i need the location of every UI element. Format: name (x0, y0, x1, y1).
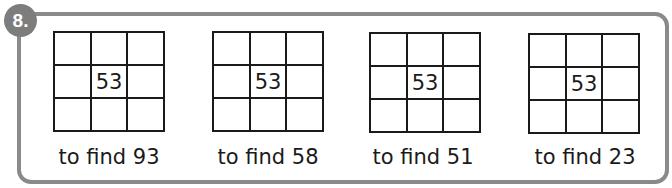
grid-cell[interactable] (127, 65, 164, 98)
grid-cell[interactable] (286, 98, 323, 131)
grid-cell[interactable] (127, 98, 164, 131)
grid-cell[interactable] (529, 34, 566, 67)
grid-cell[interactable] (443, 66, 480, 99)
grid-cell[interactable] (286, 65, 323, 98)
grid-cell[interactable] (443, 99, 480, 132)
grid-cell[interactable] (443, 33, 480, 66)
grid-cell[interactable] (529, 67, 566, 100)
grid-cell[interactable] (213, 98, 250, 131)
grid-cell[interactable] (213, 65, 250, 98)
grid-cell[interactable] (91, 98, 128, 131)
grid-cell[interactable] (529, 100, 566, 133)
grid-cell[interactable] (127, 32, 164, 65)
grid-cell[interactable] (250, 32, 287, 65)
hundred-square-grid: 53 (212, 31, 324, 132)
grid-cell[interactable] (370, 99, 407, 132)
grid-cell-center: 53 (250, 65, 287, 98)
grid-cell[interactable] (407, 33, 444, 66)
puzzle-caption: to find 58 (188, 145, 348, 169)
grid-cell[interactable] (54, 32, 91, 65)
grid-cell[interactable] (602, 34, 639, 67)
grid-cell[interactable] (370, 66, 407, 99)
grid-cell[interactable] (213, 32, 250, 65)
grid-cell[interactable] (602, 67, 639, 100)
grid-cell-center: 53 (407, 66, 444, 99)
hundred-square-grid: 53 (369, 32, 481, 133)
grid-cell[interactable] (566, 100, 603, 133)
hundred-square-grid: 53 (53, 31, 165, 132)
grid-cell[interactable] (54, 98, 91, 131)
grid-cell[interactable] (370, 33, 407, 66)
grid-cell[interactable] (91, 32, 128, 65)
grid-cell-center: 53 (91, 65, 128, 98)
grid-cell[interactable] (286, 32, 323, 65)
question-number-badge: 8. (4, 4, 37, 37)
puzzle-caption: to find 23 (505, 145, 665, 169)
puzzle-caption: to find 93 (29, 145, 189, 169)
grid-cell[interactable] (566, 34, 603, 67)
puzzle-caption: to find 51 (343, 145, 503, 169)
hundred-square-grid: 53 (528, 33, 640, 134)
grid-cell[interactable] (602, 100, 639, 133)
grid-cell-center: 53 (566, 67, 603, 100)
grid-cell[interactable] (407, 99, 444, 132)
grid-cell[interactable] (54, 65, 91, 98)
grid-cell[interactable] (250, 98, 287, 131)
